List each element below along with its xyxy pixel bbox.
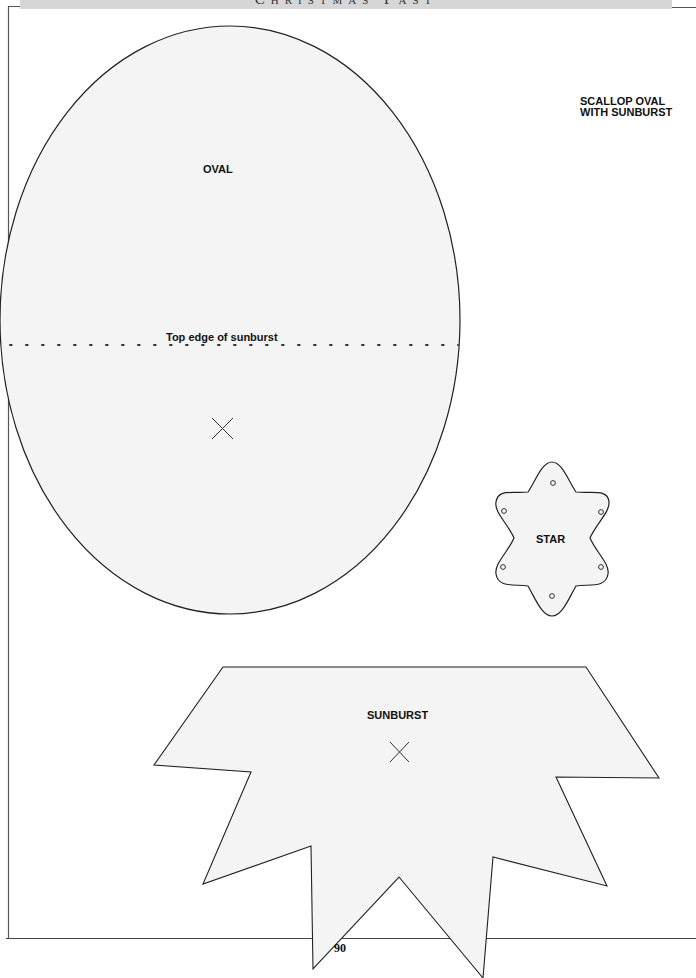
oval-shape — [0, 26, 460, 614]
page-number: 90 — [334, 941, 346, 956]
pattern-title-line2: WITH SUNBURST — [580, 107, 672, 118]
oval-label: OVAL — [203, 163, 233, 175]
star-label: STAR — [536, 533, 565, 545]
sunburst-guide-label: Top edge of sunburst — [166, 331, 278, 343]
sunburst-label: SUNBURST — [367, 709, 428, 721]
pattern-title: SCALLOP OVAL WITH SUNBURST — [580, 96, 672, 118]
pattern-artwork — [0, 0, 696, 978]
